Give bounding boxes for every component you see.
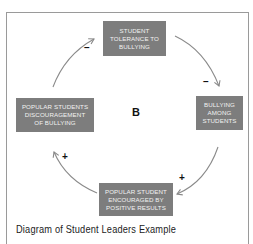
node-bullying-among-students: BULLYING AMONG STUDENTS [196,96,243,130]
node-text-line: AMONG [196,109,243,117]
node-student-tolerance: STUDENT TOLERANCE TO BULLYING [103,21,166,56]
arrow-right-to-bottom [177,147,218,194]
node-text-line: POPULAR STUDENT [99,188,173,196]
node-text-line: ENCOURAGED BY [99,196,173,204]
node-text-line: POPULAR STUDENTS [16,103,94,111]
node-text-line: STUDENTS [196,117,243,125]
polarity-sign-right-to-bottom: + [179,173,185,183]
balancing-loop-label: B [132,106,140,118]
node-text-line: BULLYING [196,101,243,109]
node-text-line: POSITIVE RESULTS [99,204,173,212]
node-popular-students-discouragement: POPULAR STUDENTS DISCOURAGEMENT OF BULLY… [16,98,94,132]
polarity-sign-bottom-to-left: + [62,152,68,162]
figure-caption: Diagram of Student Leaders Example [16,223,176,235]
node-text-line: DISCOURAGEMENT [16,111,94,119]
node-text-line: OF BULLYING [16,119,94,127]
arrow-top-to-right [175,36,219,86]
node-popular-student-encouraged: POPULAR STUDENT ENCOURAGED BY POSITIVE R… [99,183,173,216]
node-text-line: BULLYING [103,43,166,51]
node-text-line: STUDENT [103,27,166,35]
arrow-bottom-to-left [54,152,97,193]
polarity-sign-top-to-right: – [203,77,209,87]
polarity-sign-left-to-top: – [84,43,90,53]
node-text-line: TOLERANCE TO [103,35,166,43]
